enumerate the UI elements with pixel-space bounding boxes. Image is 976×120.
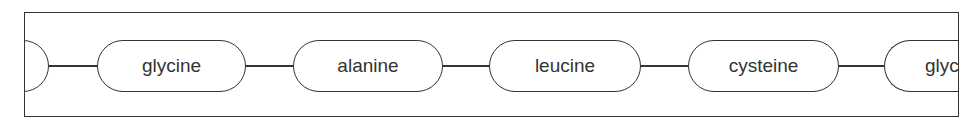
node-label: glyc [925, 55, 959, 77]
connector [245, 65, 294, 67]
connector [838, 65, 885, 67]
diagram-frame: glycine alanine leucine cysteine glyc [24, 12, 959, 117]
node-alanine: alanine [293, 40, 443, 92]
node-cysteine: cysteine [688, 40, 839, 92]
connector [442, 65, 490, 67]
node-glycine: glycine [97, 40, 246, 92]
node-label: alanine [337, 55, 398, 77]
partial-node-left [24, 40, 49, 92]
node-label: cysteine [729, 55, 799, 77]
node-label: glycine [142, 55, 201, 77]
connector [640, 65, 689, 67]
node-leucine: leucine [489, 40, 641, 92]
node-label: leucine [535, 55, 595, 77]
connector [49, 65, 98, 67]
partial-node-right: glyc [884, 40, 959, 92]
